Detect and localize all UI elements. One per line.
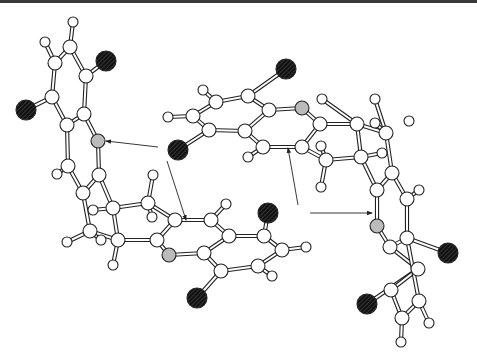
oxygen-atom bbox=[258, 203, 278, 223]
carbon-atom bbox=[186, 109, 200, 123]
hydrogen-atom bbox=[404, 116, 414, 126]
carbon-atom bbox=[350, 117, 364, 131]
carbon-atom bbox=[111, 233, 125, 247]
nitrogen-atom bbox=[370, 219, 384, 233]
hydrogen-atom bbox=[163, 112, 173, 122]
carbon-atom bbox=[275, 243, 289, 257]
nitrogen-atom bbox=[295, 101, 309, 115]
carbon-atom bbox=[241, 89, 255, 103]
carbon-atom bbox=[262, 103, 276, 117]
carbon-atom bbox=[150, 233, 164, 247]
carbon-atom bbox=[400, 231, 414, 245]
hydrogen-atom bbox=[316, 182, 326, 192]
hydrogen-atom bbox=[301, 242, 311, 252]
carbon-atom bbox=[383, 240, 397, 254]
hydrogen-atom bbox=[198, 85, 208, 95]
hydrogen-atom bbox=[317, 94, 327, 104]
oxygen-atom bbox=[438, 243, 458, 263]
carbon-atom bbox=[251, 259, 265, 273]
carbon-atom bbox=[354, 150, 368, 164]
carbon-atom bbox=[400, 192, 414, 206]
hydrogen-atom bbox=[147, 212, 157, 222]
carbon-atom bbox=[83, 224, 97, 238]
carbon-atom bbox=[204, 213, 218, 227]
carbon-atom bbox=[412, 294, 426, 308]
carbon-atom bbox=[63, 40, 77, 54]
carbon-atom bbox=[61, 159, 75, 173]
hydrogen-atom bbox=[424, 318, 434, 328]
hydrogen-atom bbox=[108, 260, 118, 270]
hydrogen-atom bbox=[396, 337, 406, 347]
carbon-atom bbox=[106, 201, 120, 215]
hydrogen-bond-arrow bbox=[288, 148, 298, 205]
carbon-atom bbox=[384, 283, 398, 297]
carbon-atom bbox=[370, 183, 384, 197]
oxygen-atom bbox=[187, 288, 207, 308]
carbon-atom bbox=[60, 118, 74, 132]
hydrogen-bond-arrow bbox=[106, 141, 158, 147]
carbon-atom bbox=[77, 107, 91, 121]
hydrogen-atom bbox=[96, 235, 106, 245]
carbon-atom bbox=[313, 117, 327, 131]
carbon-atom bbox=[197, 246, 211, 260]
oxygen-atom bbox=[168, 140, 188, 160]
hydrogen-atom bbox=[370, 118, 380, 128]
hydrogen-atom bbox=[221, 199, 231, 209]
carbon-atom bbox=[141, 196, 155, 210]
hydrogen-atom bbox=[62, 237, 72, 247]
hydrogen-atom bbox=[68, 17, 78, 27]
hydrogen-atom bbox=[267, 271, 277, 281]
hydrogen-atom bbox=[148, 170, 158, 180]
carbon-atom bbox=[256, 140, 270, 154]
carbon-atom bbox=[295, 140, 309, 154]
oxygen-atom bbox=[276, 59, 296, 79]
hydrogen-atom bbox=[40, 37, 50, 47]
oxygen-atom bbox=[96, 51, 116, 71]
oxygen-atom bbox=[16, 100, 36, 120]
hydrogen-atom bbox=[88, 205, 98, 215]
hydrogen-atom bbox=[52, 169, 62, 179]
carbon-atom bbox=[92, 168, 106, 182]
carbon-atom bbox=[202, 123, 216, 137]
carbon-atom bbox=[168, 213, 182, 227]
carbon-atom bbox=[222, 229, 236, 243]
carbon-atom bbox=[79, 69, 93, 83]
carbon-atom bbox=[257, 229, 271, 243]
carbon-atom bbox=[48, 56, 62, 70]
carbon-atom bbox=[319, 153, 333, 167]
hydrogen-atom bbox=[414, 185, 424, 195]
oxygen-atom bbox=[357, 294, 377, 314]
molecule-diagram bbox=[0, 0, 477, 360]
carbon-atom bbox=[379, 126, 393, 140]
carbon-atom bbox=[411, 262, 425, 276]
carbon-atom bbox=[238, 124, 252, 138]
hydrogen-atom bbox=[377, 148, 387, 158]
hydrogen-bond-arrow bbox=[167, 161, 186, 220]
nitrogen-atom bbox=[162, 248, 176, 262]
hydrogen-atom bbox=[370, 94, 380, 104]
carbon-atom bbox=[76, 186, 90, 200]
nitrogen-atom bbox=[91, 134, 105, 148]
carbon-atom bbox=[214, 264, 228, 278]
carbon-atom bbox=[385, 166, 399, 180]
hydrogen-atom bbox=[316, 141, 326, 151]
carbon-atom bbox=[395, 311, 409, 325]
hydrogen-atom bbox=[243, 152, 253, 162]
carbon-atom bbox=[209, 95, 223, 109]
carbon-atom bbox=[45, 90, 59, 104]
